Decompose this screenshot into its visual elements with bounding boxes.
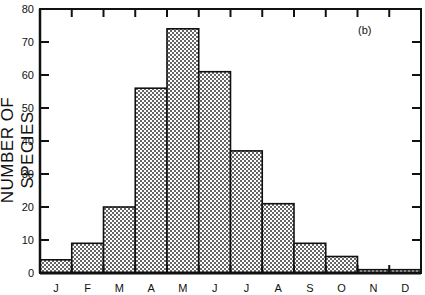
- y-tick-label: 20: [22, 201, 34, 213]
- y-tick-label: 10: [22, 234, 34, 246]
- x-tick-label: M: [178, 282, 187, 294]
- bar-2: [104, 207, 136, 273]
- y-tick-label: 60: [22, 69, 34, 81]
- histogram-chart: 01020304050607080JFMAMJJASOND: [0, 0, 425, 295]
- y-tick-label: 30: [22, 168, 34, 180]
- x-tick-label: F: [84, 282, 91, 294]
- bar-0: [40, 260, 72, 273]
- x-tick-label: M: [115, 282, 124, 294]
- bar-4: [167, 29, 199, 273]
- x-tick-label: O: [337, 282, 346, 294]
- bar-9: [326, 257, 358, 274]
- bars: [40, 29, 421, 273]
- x-tick-label: N: [369, 282, 377, 294]
- bar-8: [294, 243, 326, 273]
- bar-3: [135, 88, 167, 273]
- x-tick-label: J: [212, 282, 218, 294]
- bar-5: [199, 72, 231, 273]
- x-tick-label: J: [244, 282, 250, 294]
- bar-7: [262, 204, 294, 273]
- x-tick-label: A: [274, 282, 282, 294]
- y-tick-label: 0: [28, 267, 34, 279]
- bar-6: [231, 151, 263, 273]
- y-tick-label: 40: [22, 135, 34, 147]
- x-tick-label: S: [306, 282, 313, 294]
- y-tick-label: 70: [22, 36, 34, 48]
- x-tick-label: J: [53, 282, 59, 294]
- x-tick-label: D: [401, 282, 409, 294]
- y-tick-label: 50: [22, 102, 34, 114]
- bar-1: [72, 243, 104, 273]
- x-tick-label: A: [147, 282, 155, 294]
- y-tick-label: 80: [22, 3, 34, 15]
